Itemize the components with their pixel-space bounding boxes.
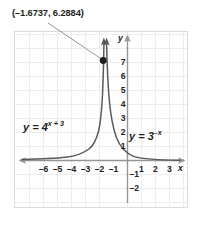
y-tick-label: –1 [130,169,150,179]
y-tick-label: 4 [106,99,126,109]
equation-right-exponent: –x [154,128,162,137]
y-tick-label: 3 [106,113,126,123]
y-tick-label: –2 [130,183,150,193]
y-tick-label: 7 [106,57,126,67]
y-tick-label: 5 [106,85,126,95]
exponential-functions-graph [0,0,201,228]
y-tick-label: 2 [106,127,126,137]
intersection-point-label: (–1.6737, 6.2884) [12,8,84,18]
equation-left-exponent: x + 3 [48,119,64,128]
x-tick-label: 3 [160,164,180,174]
equation-left-base: y = 4 [23,121,48,133]
x-axis-name: x [178,163,183,173]
equation-label-left: y = 4x + 3 [23,121,64,133]
y-axis-name: y [118,33,123,43]
equation-right-base: y = 3 [129,130,154,142]
x-tick-label: –1 [104,164,124,174]
y-tick-label: 1 [106,141,126,151]
equation-label-right: y = 3–x [129,130,162,142]
y-tick-label: 6 [106,71,126,81]
